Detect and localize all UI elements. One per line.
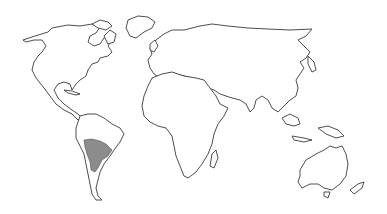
japan xyxy=(308,56,316,72)
australia xyxy=(298,146,348,190)
caribbean-islands xyxy=(64,90,80,95)
north-america xyxy=(23,24,112,120)
madagascar xyxy=(210,150,218,168)
new-zealand xyxy=(350,182,364,194)
greenland xyxy=(126,16,155,38)
world-map-svg xyxy=(0,0,387,214)
tasmania xyxy=(324,192,330,198)
new-guinea xyxy=(318,126,344,138)
indonesia xyxy=(282,114,300,126)
world-map xyxy=(0,0,387,214)
sumatra-java xyxy=(292,136,312,142)
